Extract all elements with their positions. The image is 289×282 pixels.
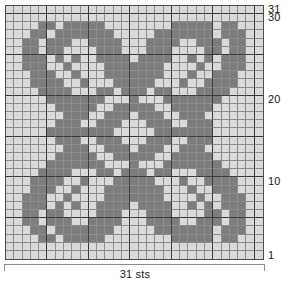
chart-cell[interactable] <box>81 251 89 259</box>
chart-cell[interactable] <box>23 112 31 120</box>
chart-cell[interactable] <box>230 210 238 218</box>
chart-cell[interactable] <box>213 177 221 185</box>
chart-cell[interactable] <box>230 202 238 210</box>
chart-cell[interactable] <box>246 6 254 14</box>
chart-cell[interactable] <box>114 30 122 38</box>
chart-cell[interactable] <box>172 71 180 79</box>
chart-cell[interactable] <box>139 218 147 226</box>
chart-cell[interactable] <box>114 55 122 63</box>
chart-cell[interactable] <box>14 137 22 145</box>
chart-cell[interactable] <box>47 153 55 161</box>
chart-cell[interactable] <box>130 22 138 30</box>
chart-cell[interactable] <box>56 47 64 55</box>
chart-cell[interactable] <box>122 79 130 87</box>
chart-cell[interactable] <box>130 96 138 104</box>
chart-cell[interactable] <box>188 137 196 145</box>
chart-cell[interactable] <box>130 6 138 14</box>
chart-cell[interactable] <box>97 145 105 153</box>
chart-cell[interactable] <box>39 112 47 120</box>
chart-cell[interactable] <box>180 153 188 161</box>
chart-cell[interactable] <box>180 47 188 55</box>
chart-cell[interactable] <box>188 104 196 112</box>
chart-cell[interactable] <box>130 47 138 55</box>
chart-cell[interactable] <box>222 161 230 169</box>
chart-cell[interactable] <box>105 202 113 210</box>
chart-cell[interactable] <box>47 226 55 234</box>
chart-cell[interactable] <box>139 186 147 194</box>
chart-cell[interactable] <box>114 14 122 22</box>
chart-cell[interactable] <box>56 96 64 104</box>
chart-cell[interactable] <box>23 39 31 47</box>
chart-cell[interactable] <box>222 186 230 194</box>
chart-cell[interactable] <box>23 218 31 226</box>
chart-cell[interactable] <box>255 128 263 136</box>
chart-cell[interactable] <box>188 251 196 259</box>
chart-cell[interactable] <box>114 153 122 161</box>
chart-cell[interactable] <box>230 6 238 14</box>
chart-cell[interactable] <box>164 30 172 38</box>
chart-cell[interactable] <box>72 218 80 226</box>
chart-cell[interactable] <box>230 235 238 243</box>
chart-cell[interactable] <box>172 112 180 120</box>
chart-cell[interactable] <box>14 6 22 14</box>
chart-cell[interactable] <box>222 88 230 96</box>
chart-cell[interactable] <box>23 177 31 185</box>
chart-cell[interactable] <box>147 30 155 38</box>
chart-cell[interactable] <box>172 104 180 112</box>
chart-cell[interactable] <box>64 55 72 63</box>
chart-cell[interactable] <box>238 145 246 153</box>
chart-cell[interactable] <box>213 47 221 55</box>
chart-cell[interactable] <box>6 120 14 128</box>
chart-cell[interactable] <box>47 161 55 169</box>
chart-cell[interactable] <box>213 120 221 128</box>
chart-cell[interactable] <box>197 226 205 234</box>
chart-cell[interactable] <box>31 161 39 169</box>
chart-cell[interactable] <box>130 235 138 243</box>
chart-cell[interactable] <box>6 79 14 87</box>
chart-cell[interactable] <box>14 194 22 202</box>
chart-cell[interactable] <box>114 169 122 177</box>
chart-cell[interactable] <box>47 71 55 79</box>
chart-cell[interactable] <box>130 63 138 71</box>
chart-cell[interactable] <box>72 194 80 202</box>
chart-cell[interactable] <box>6 194 14 202</box>
chart-cell[interactable] <box>180 226 188 234</box>
chart-cell[interactable] <box>122 194 130 202</box>
chart-cell[interactable] <box>255 235 263 243</box>
chart-cell[interactable] <box>23 63 31 71</box>
chart-cell[interactable] <box>255 161 263 169</box>
chart-cell[interactable] <box>47 202 55 210</box>
chart-cell[interactable] <box>180 6 188 14</box>
chart-cell[interactable] <box>147 47 155 55</box>
chart-cell[interactable] <box>105 112 113 120</box>
chart-cell[interactable] <box>197 210 205 218</box>
chart-cell[interactable] <box>180 79 188 87</box>
chart-cell[interactable] <box>64 112 72 120</box>
chart-cell[interactable] <box>205 226 213 234</box>
chart-cell[interactable] <box>147 128 155 136</box>
chart-cell[interactable] <box>105 210 113 218</box>
chart-cell[interactable] <box>89 161 97 169</box>
chart-cell[interactable] <box>130 210 138 218</box>
chart-cell[interactable] <box>130 161 138 169</box>
chart-cell[interactable] <box>47 120 55 128</box>
chart-cell[interactable] <box>14 153 22 161</box>
chart-cell[interactable] <box>238 153 246 161</box>
chart-cell[interactable] <box>238 137 246 145</box>
chart-cell[interactable] <box>205 235 213 243</box>
chart-cell[interactable] <box>197 251 205 259</box>
chart-cell[interactable] <box>64 39 72 47</box>
chart-cell[interactable] <box>180 210 188 218</box>
chart-cell[interactable] <box>155 137 163 145</box>
chart-cell[interactable] <box>246 55 254 63</box>
chart-cell[interactable] <box>97 104 105 112</box>
chart-cell[interactable] <box>23 153 31 161</box>
chart-cell[interactable] <box>6 169 14 177</box>
chart-cell[interactable] <box>14 210 22 218</box>
chart-cell[interactable] <box>122 39 130 47</box>
chart-cell[interactable] <box>39 169 47 177</box>
chart-cell[interactable] <box>197 235 205 243</box>
chart-cell[interactable] <box>213 112 221 120</box>
chart-cell[interactable] <box>130 251 138 259</box>
chart-cell[interactable] <box>222 128 230 136</box>
